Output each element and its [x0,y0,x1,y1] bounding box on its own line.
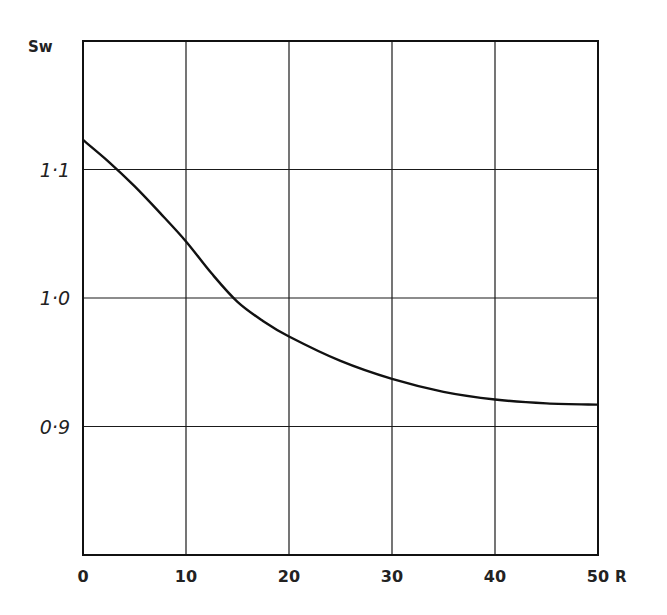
x-tick-labels: 01020304050 [77,567,609,586]
x-axis-label: R [615,568,627,586]
y-axis-label: Sw [28,38,53,56]
y-tick-label: 0·9 [40,416,70,438]
grid-lines [83,41,598,555]
y-tick-labels: 0·91·01·1 [40,159,70,438]
data-curve [83,140,598,405]
x-tick-label: 50 [587,567,609,586]
y-tick-label: 1·1 [40,159,70,181]
x-tick-label: 0 [77,567,88,586]
x-tick-label: 20 [278,567,300,586]
x-tick-label: 10 [175,567,197,586]
y-tick-label: 1·0 [40,287,70,309]
x-tick-label: 40 [484,567,506,586]
chart: 0·91·01·1 01020304050 Sw R [0,0,667,615]
x-tick-label: 30 [381,567,403,586]
